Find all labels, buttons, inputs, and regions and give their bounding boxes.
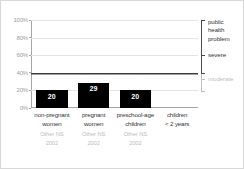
bar-slot-2: 29 — [73, 20, 115, 108]
bar-value-label: 20 — [48, 93, 56, 100]
category-source-line2: 2002 — [73, 139, 115, 147]
bar-slot-3: 20 — [115, 20, 157, 108]
category-pregnant-women: pregnant women Other NS 2002 — [73, 111, 115, 147]
bar-series: 20 29 20 — [31, 20, 198, 108]
annotation-label-severe: severe — [208, 51, 226, 59]
bar-preschool-age-children[interactable]: 20 — [120, 90, 152, 108]
annotation-label-problem: problem — [208, 35, 230, 43]
annotation-tick-severe — [201, 55, 205, 56]
category-children-under-2: children < 2 years — [156, 111, 198, 128]
annotation-label-health: health — [208, 26, 224, 34]
y-tick-label-0: 0% — [20, 105, 28, 111]
category-preschool-age-children: preschool-age children Other NS 2002 — [115, 111, 157, 147]
category-label-line1: non-pregnant — [31, 111, 73, 120]
y-tick-label-100: 100% — [13, 17, 28, 23]
y-tick-label-40: 40% — [17, 70, 28, 76]
chart-figure: 100% 80% 60% 40% 20% 0% 20 — [0, 0, 244, 169]
category-label-line1: children — [156, 111, 198, 120]
y-tick-label-60: 60% — [17, 52, 28, 58]
category-source-line1: Other NS — [31, 130, 73, 138]
bar-value-label: 20 — [131, 93, 139, 100]
bracket-moderate — [201, 74, 205, 92]
annotation-label-moderate: moderate — [208, 75, 233, 83]
category-source-line2: 2002 — [31, 139, 73, 147]
category-label-line1: pregnant — [73, 111, 115, 120]
category-label-line2: women — [31, 120, 73, 129]
category-label-line1: preschool-age — [115, 111, 157, 120]
category-source-line2: 2002 — [115, 139, 157, 147]
bar-slot-1: 20 — [31, 20, 73, 108]
bracket-public-health-problem — [201, 20, 205, 74]
bar-pregnant-women[interactable]: 29 — [78, 83, 110, 109]
category-label-line2: children — [115, 120, 157, 129]
bar-non-pregnant-women[interactable]: 20 — [36, 90, 68, 108]
y-tick-label-80: 80% — [17, 35, 28, 41]
category-label-line2: women — [73, 120, 115, 129]
severity-annotations: public health problem severe moderate — [201, 20, 244, 108]
bar-slot-4 — [156, 20, 198, 108]
plot-area: 100% 80% 60% 40% 20% 0% 20 — [31, 20, 198, 108]
category-non-pregnant-women: non-pregnant women Other NS 2002 — [31, 111, 73, 147]
bar-value-label: 29 — [90, 85, 98, 92]
y-tick-label-20: 20% — [17, 87, 28, 93]
x-axis-categories: non-pregnant women Other NS 2002 pregnan… — [31, 111, 198, 163]
category-source-line1: Other NS — [73, 130, 115, 138]
category-label-line2: < 2 years — [156, 120, 198, 129]
category-source-line1: Other NS — [115, 130, 157, 138]
annotation-label-public: public — [208, 18, 224, 26]
